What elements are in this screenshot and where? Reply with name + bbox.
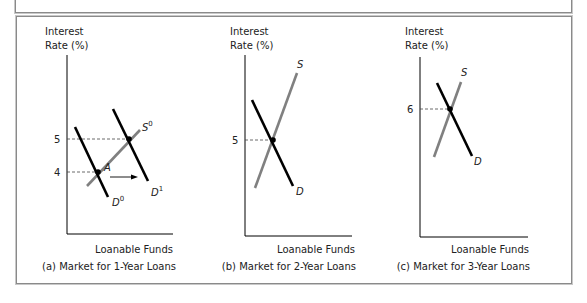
panel-a-tick-5: 5 xyxy=(54,134,60,145)
panel-c-3-year-loans: Interest Rate (%) 6 S D Loanable Funds (… xyxy=(397,26,530,272)
panel-a-d0-label: D0 xyxy=(112,195,124,208)
panel-a-equilibrium-a xyxy=(95,169,101,175)
panel-c-ylabel-line1: Interest xyxy=(405,26,444,37)
panel-b-equilibrium xyxy=(270,137,276,143)
panel-a-ylabel-line2: Rate (%) xyxy=(45,40,89,51)
panel-b-xlabel: Loanable Funds xyxy=(277,244,355,255)
panel-c-tick-6: 6 xyxy=(407,104,413,115)
panel-c-supply xyxy=(434,82,461,157)
panel-c-equilibrium xyxy=(447,106,453,112)
panel-a-1-year-loans: Interest Rate (%) 5 4 A S0 D0 D1 Loanabl… xyxy=(42,26,176,272)
panel-a-xlabel: Loanable Funds xyxy=(95,244,173,255)
panel-c-ylabel-line2: Rate (%) xyxy=(405,40,449,51)
panel-a-caption: (a) Market for 1-Year Loans xyxy=(42,261,176,272)
panel-c-demand xyxy=(437,83,472,156)
panel-a-point-label: A xyxy=(103,162,111,173)
panel-b-caption: (b) Market for 2-Year Loans xyxy=(222,261,356,272)
panel-a-ylabel-line1: Interest xyxy=(45,26,84,37)
panel-b-d-label: D xyxy=(296,186,304,197)
panel-a-s0-label: S0 xyxy=(142,120,153,133)
panel-b-tick-5: 5 xyxy=(232,135,238,146)
panel-b-supply xyxy=(255,73,297,188)
panel-a-demand-d1 xyxy=(113,109,148,181)
panel-c-s-label: S xyxy=(461,67,468,78)
panel-c-d-label: D xyxy=(474,156,482,167)
panel-a-tick-4: 4 xyxy=(54,167,60,178)
panel-b-ylabel-line1: Interest xyxy=(230,26,269,37)
panel-a-d1-label: D1 xyxy=(151,185,163,198)
loan-markets-figure: Interest Rate (%) 5 4 A S0 D0 D1 Loanabl… xyxy=(0,0,587,303)
panel-c-xlabel: Loanable Funds xyxy=(451,244,529,255)
panel-c-caption: (c) Market for 3-Year Loans xyxy=(397,261,530,272)
panel-b-demand xyxy=(252,100,293,186)
panel-b-ylabel-line2: Rate (%) xyxy=(230,40,274,51)
panel-b-s-label: S xyxy=(297,59,304,70)
arrow-right-icon xyxy=(131,175,138,180)
panel-b-2-year-loans: Interest Rate (%) 5 S D Loanable Funds (… xyxy=(222,26,356,272)
panel-a-equilibrium-new xyxy=(126,136,132,142)
